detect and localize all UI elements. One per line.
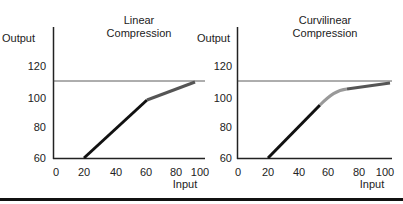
x-axis-label: Input [360, 178, 384, 190]
curvilinear-knee [320, 89, 347, 105]
x-tick: 20 [78, 166, 90, 178]
chart-title-line1: Linear [124, 14, 155, 26]
linear-segment [84, 100, 147, 158]
chart-title-line2: Compression [107, 27, 172, 39]
y-tick: 60 [220, 152, 232, 164]
x-tick: 80 [170, 166, 182, 178]
x-tick: 20 [262, 166, 274, 178]
bottom-rule [0, 198, 403, 201]
linear-segment [268, 105, 320, 158]
compression-charts: Linear Compression Output 120 100 80 60 … [0, 0, 403, 204]
x-tick: 0 [53, 166, 59, 178]
y-tick: 120 [214, 60, 232, 72]
y-tick: 100 [28, 92, 46, 104]
x-tick: 0 [235, 166, 241, 178]
x-tick: 80 [353, 166, 365, 178]
chart-title-line1: Curvilinear [299, 14, 352, 26]
compressed-segment [147, 82, 195, 100]
x-axis-label: Input [173, 178, 197, 190]
y-tick: 60 [34, 152, 46, 164]
y-tick: 100 [214, 92, 232, 104]
y-axis-label: Output [2, 32, 35, 44]
compressed-segment [347, 83, 390, 89]
x-tick: 40 [110, 166, 122, 178]
x-tick: 100 [191, 166, 209, 178]
x-tick: 40 [293, 166, 305, 178]
x-tick: 60 [140, 166, 152, 178]
y-tick: 80 [220, 121, 232, 133]
x-tick: 60 [322, 166, 334, 178]
linear-compression-chart: Linear Compression Output 120 100 80 60 … [2, 14, 209, 190]
x-tick: 100 [376, 166, 394, 178]
y-tick: 120 [28, 60, 46, 72]
curvilinear-compression-chart: Curvilinear Compression Output 120 100 8… [197, 14, 394, 190]
y-tick: 80 [34, 121, 46, 133]
chart-title-line2: Compression [293, 27, 358, 39]
y-axis-label: Output [197, 32, 230, 44]
